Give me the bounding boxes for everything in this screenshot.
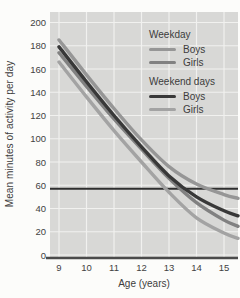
y-tick-label: 120: [0, 110, 46, 121]
y-tick-label: 160: [0, 64, 46, 75]
y-tick-label: 20: [0, 226, 46, 237]
legend-item: Girls: [149, 56, 215, 69]
x-tick-label: 15: [213, 262, 235, 273]
legend-item-label: Girls: [183, 57, 204, 68]
y-tick-label: 0: [0, 250, 46, 261]
legend-item-label: Boys: [183, 44, 205, 55]
legend-group-weekend: Weekend days Boys Girls: [149, 76, 215, 116]
y-tick-label: 200: [0, 17, 46, 28]
y-tick-label: 80: [0, 157, 46, 168]
legend-item: Girls: [149, 103, 215, 116]
legend: Weekday Boys Girls Weekend days Boys Gir…: [149, 29, 215, 116]
legend-item-label: Girls: [183, 104, 204, 115]
weekday-girls-line-swatch: [149, 61, 176, 65]
y-tick-label: 140: [0, 87, 46, 98]
weekday-boys-line-swatch: [149, 48, 176, 52]
activity-by-age-figure: Mean minutes of activity per day 2001801…: [0, 0, 240, 298]
legend-item: Boys: [149, 43, 215, 56]
weekend-boys-line-swatch: [149, 95, 176, 99]
x-tick-label: 14: [186, 262, 208, 273]
legend-item-label: Boys: [183, 91, 205, 102]
y-tick-label: 100: [0, 133, 46, 144]
legend-group-weekday: Weekday Boys Girls: [149, 29, 215, 69]
x-axis-label: Age (years): [50, 278, 238, 289]
x-tick-label: 12: [131, 262, 153, 273]
legend-group-title: Weekend days: [149, 76, 215, 87]
weekend-girls-line-swatch: [149, 108, 176, 112]
legend-item: Boys: [149, 90, 215, 103]
x-tick-label: 13: [158, 262, 180, 273]
y-tick-label: 60: [0, 180, 46, 191]
y-tick-label: 180: [0, 40, 46, 51]
y-tick-label: 40: [0, 203, 46, 214]
x-tick-label: 11: [103, 262, 125, 273]
x-tick-label: 10: [76, 262, 98, 273]
x-tick-label: 9: [48, 262, 70, 273]
legend-group-title: Weekday: [149, 29, 215, 40]
